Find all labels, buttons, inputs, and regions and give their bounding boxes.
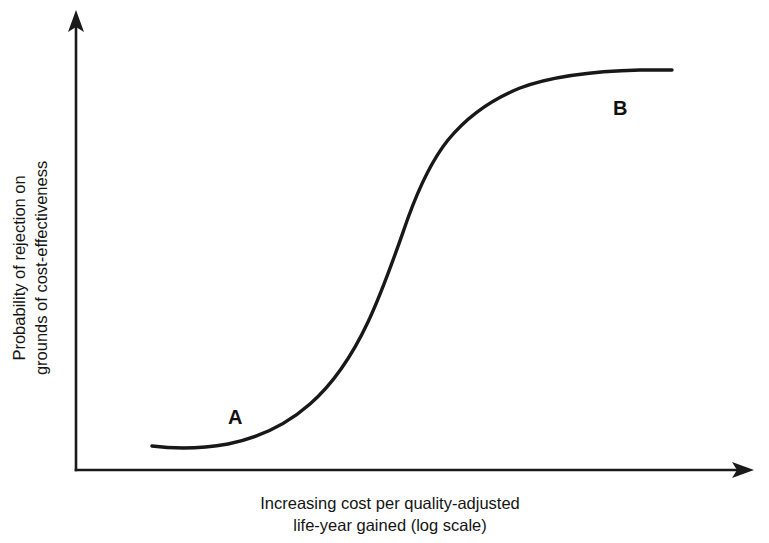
annotation-label-b: B — [613, 98, 627, 118]
y-axis-title-line-1: Probability of rejection on — [9, 118, 31, 418]
x-axis-title: Increasing cost per quality-adjusted lif… — [150, 492, 630, 537]
y-axis-title-line-2: grounds of cost-effectiveness — [31, 118, 53, 418]
cost-effectiveness-rejection-chart: A B Probability of rejection on grounds … — [0, 0, 769, 543]
y-axis-title: Probability of rejection on grounds of c… — [9, 118, 53, 418]
sigmoid-curve — [152, 70, 672, 448]
x-axis-title-line-1: Increasing cost per quality-adjusted — [150, 492, 630, 514]
annotation-label-a: A — [228, 407, 242, 427]
x-axis-title-line-2: life-year gained (log scale) — [150, 514, 630, 536]
chart-plot-area — [0, 0, 769, 543]
